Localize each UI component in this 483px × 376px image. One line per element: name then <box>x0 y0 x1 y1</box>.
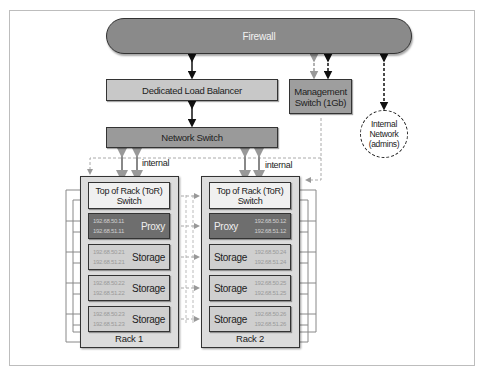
network-switch-label: Network Switch <box>161 132 222 143</box>
node-type: Storage <box>132 283 165 294</box>
management-switch-node: Management Switch (1Gb) <box>289 79 352 114</box>
node-type: Storage <box>132 314 165 325</box>
ip-address: 192.68.51.23 <box>93 319 124 329</box>
storage-node: Storage 192.68.50.26192.68.51.26 <box>209 306 291 332</box>
ip-address: 192.68.51.11 <box>93 226 124 236</box>
node-type: Proxy <box>214 221 238 232</box>
storage-node: Storage 192.68.50.24192.68.51.24 <box>209 244 291 270</box>
tor-switch: Top of Rack (ToR) Switch <box>209 182 291 209</box>
tor-line2: Switch <box>96 196 163 206</box>
ip-address: 192.68.50.22 <box>93 278 124 288</box>
rack-2: Top of Rack (ToR) Switch Proxy 192.68.50… <box>201 176 300 348</box>
ip-address: 192.68.50.21 <box>93 247 124 257</box>
node-type: Storage <box>214 283 247 294</box>
internal-network-line3: (admins) <box>369 139 400 149</box>
rack-label: Rack 1 <box>81 333 177 344</box>
network-switch-node: Network Switch <box>106 127 278 148</box>
ip-address: 192.68.50.12 <box>255 216 286 226</box>
proxy-node: 192.68.50.11192.68.51.11 Proxy <box>88 213 170 239</box>
management-switch-line2: Switch (1Gb) <box>294 97 346 108</box>
ip-address: 192.68.50.23 <box>93 309 124 319</box>
tor-line2: Switch <box>217 196 284 206</box>
rack-label: Rack 2 <box>202 333 298 344</box>
load-balancer-label: Dedicated Load Balancer <box>142 85 242 96</box>
proxy-node: Proxy 192.68.50.12192.68.51.12 <box>209 213 291 239</box>
rack-1: Top of Rack (ToR) Switch 192.68.50.11192… <box>80 176 179 348</box>
firewall-node: Firewall <box>106 18 412 54</box>
storage-node: 192.68.50.22192.68.51.22 Storage <box>88 275 170 301</box>
tor-line1: Top of Rack (ToR) <box>217 186 284 196</box>
internal-network-node: Internal Network (admins) <box>360 110 408 158</box>
ip-address: 192.68.50.25 <box>255 278 286 288</box>
ip-address: 192.68.51.26 <box>255 319 286 329</box>
load-balancer-node: Dedicated Load Balancer <box>106 79 278 101</box>
node-type: Storage <box>214 314 247 325</box>
ip-address: 192.68.51.24 <box>255 257 286 267</box>
node-type: Proxy <box>141 221 165 232</box>
node-type: Storage <box>132 252 165 263</box>
storage-node: 192.68.50.23192.68.51.23 Storage <box>88 306 170 332</box>
tor-line1: Top of Rack (ToR) <box>96 186 163 196</box>
internal-network-line1: Internal <box>369 119 400 129</box>
tor-switch: Top of Rack (ToR) Switch <box>88 182 170 209</box>
ip-address: 192.68.51.12 <box>255 226 286 236</box>
ip-address: 192.68.51.25 <box>255 288 286 298</box>
ip-address: 192.68.51.21 <box>93 257 124 267</box>
ip-address: 192.68.50.26 <box>255 309 286 319</box>
storage-node: Storage 192.68.50.25192.68.51.25 <box>209 275 291 301</box>
rack1-internal-label: internal <box>142 158 169 168</box>
node-type: Storage <box>214 252 247 263</box>
internal-network-line2: Network <box>369 129 400 139</box>
ip-address: 192.68.50.24 <box>255 247 286 257</box>
ip-address: 192.68.50.11 <box>93 216 124 226</box>
ip-address: 192.68.51.22 <box>93 288 124 298</box>
storage-node: 192.68.50.21192.68.51.21 Storage <box>88 244 170 270</box>
rack2-internal-label: internal <box>265 160 292 170</box>
management-switch-line1: Management <box>294 86 346 97</box>
firewall-label: Firewall <box>243 31 276 42</box>
